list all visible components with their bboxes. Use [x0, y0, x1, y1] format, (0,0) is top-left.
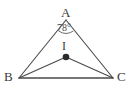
- vertex-label-c: C: [117, 70, 126, 83]
- segment-ac: [66, 20, 113, 78]
- point-label-i: I: [62, 40, 66, 52]
- vertex-label-b: B: [4, 70, 13, 83]
- geometry-figure: A B C I 78°: [0, 0, 132, 98]
- vertex-label-a: A: [61, 6, 70, 19]
- point-i-dot: [63, 54, 70, 61]
- angle-measure-label-a: 78°: [57, 23, 71, 33]
- segment-ib: [19, 57, 66, 78]
- segment-ic: [66, 57, 113, 78]
